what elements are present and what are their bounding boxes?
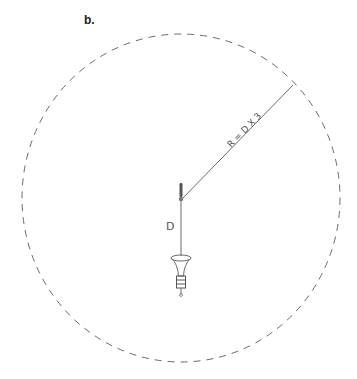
antenna-icon bbox=[179, 183, 183, 201]
radius-label: R = D X 3 bbox=[225, 111, 263, 150]
distance-label: D bbox=[166, 220, 174, 233]
horn-device-icon bbox=[171, 255, 191, 296]
diagram-canvas: b. R = D X 3 D bbox=[0, 0, 357, 379]
range-diagram: R = D X 3 D bbox=[0, 0, 357, 379]
